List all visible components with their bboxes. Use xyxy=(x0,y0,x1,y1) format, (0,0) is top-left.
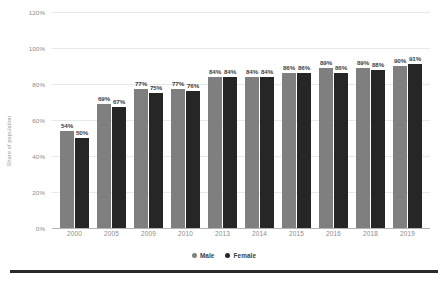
y-axis-tick-label: 40% xyxy=(32,153,45,160)
bar-value-label: 67% xyxy=(113,98,125,105)
x-axis-tick-label: 2019 xyxy=(389,230,426,237)
legend-swatch-icon xyxy=(225,253,230,258)
y-axis-tick-label: 60% xyxy=(32,117,45,124)
x-axis-tick-label: 2018 xyxy=(352,230,389,237)
bar-group: 77%75% xyxy=(130,12,167,228)
bar-group: 77%76% xyxy=(167,12,204,228)
y-axis-tick-label: 100% xyxy=(29,45,45,52)
bar-male[interactable]: 84% xyxy=(245,77,259,228)
bar-group: 89%88% xyxy=(352,12,389,228)
y-axis-tick-label: 120% xyxy=(29,9,45,16)
bar-female[interactable]: 91% xyxy=(408,64,422,228)
bar-group: 54%50% xyxy=(56,12,93,228)
bar-value-label: 91% xyxy=(409,55,421,62)
bar-value-label: 84% xyxy=(246,68,258,75)
bar-value-label: 77% xyxy=(135,80,147,87)
bar-female[interactable]: 86% xyxy=(297,73,311,228)
bar-male[interactable]: 89% xyxy=(319,68,333,228)
bar-female[interactable]: 67% xyxy=(112,107,126,228)
bar-value-label: 69% xyxy=(98,95,110,102)
x-axis-tick-labels: 2000200520092010201320142015201620182019 xyxy=(52,230,430,237)
x-axis-tick-label: 2009 xyxy=(130,230,167,237)
bar-male[interactable]: 54% xyxy=(60,131,74,228)
legend-label: Male xyxy=(200,252,215,259)
bar-value-label: 76% xyxy=(187,82,199,89)
bar-chart-figure: Share of population 0%20%40%60%80%100%12… xyxy=(0,0,448,281)
bar-group: 90%91% xyxy=(389,12,426,228)
x-axis-tick-label: 2016 xyxy=(315,230,352,237)
bar-group: 69%67% xyxy=(93,12,130,228)
bar-group: 89%86% xyxy=(315,12,352,228)
bar-value-label: 77% xyxy=(172,80,184,87)
bar-value-label: 75% xyxy=(150,84,162,91)
bar-male[interactable]: 77% xyxy=(171,89,185,228)
bar-groups: 54%50%69%67%77%75%77%76%84%84%84%84%86%8… xyxy=(52,12,430,228)
bar-male[interactable]: 89% xyxy=(356,68,370,228)
bar-value-label: 54% xyxy=(61,122,73,129)
x-axis-tick-label: 2005 xyxy=(93,230,130,237)
legend-item-male[interactable]: Male xyxy=(192,252,215,259)
x-axis-tick-label: 2010 xyxy=(167,230,204,237)
bar-value-label: 89% xyxy=(357,59,369,66)
chart-legend: MaleFemale xyxy=(0,252,448,259)
bar-female[interactable]: 84% xyxy=(223,77,237,228)
x-axis-tick-label: 2013 xyxy=(204,230,241,237)
y-axis-tick-label: 0% xyxy=(36,225,45,232)
bar-male[interactable]: 86% xyxy=(282,73,296,228)
x-axis-tick-label: 2015 xyxy=(278,230,315,237)
bar-female[interactable]: 50% xyxy=(75,138,89,228)
x-axis-tick-label: 2000 xyxy=(56,230,93,237)
legend-item-female[interactable]: Female xyxy=(225,252,256,259)
bar-value-label: 86% xyxy=(335,64,347,71)
bar-value-label: 84% xyxy=(224,68,236,75)
y-axis-tick-label: 80% xyxy=(32,81,45,88)
x-axis-tick-label: 2014 xyxy=(241,230,278,237)
bar-male[interactable]: 84% xyxy=(208,77,222,228)
bar-value-label: 84% xyxy=(209,68,221,75)
bar-group: 84%84% xyxy=(241,12,278,228)
plot-area: 54%50%69%67%77%75%77%76%84%84%84%84%86%8… xyxy=(52,12,430,228)
gridline xyxy=(52,228,430,229)
y-axis-tick-label: 20% xyxy=(32,189,45,196)
bar-value-label: 86% xyxy=(283,64,295,71)
bar-male[interactable]: 77% xyxy=(134,89,148,228)
bar-male[interactable]: 69% xyxy=(97,104,111,228)
bar-female[interactable]: 84% xyxy=(260,77,274,228)
bar-group: 86%86% xyxy=(278,12,315,228)
bar-female[interactable]: 86% xyxy=(334,73,348,228)
bar-value-label: 90% xyxy=(394,57,406,64)
bar-value-label: 50% xyxy=(76,129,88,136)
bar-female[interactable]: 75% xyxy=(149,93,163,228)
bar-value-label: 89% xyxy=(320,59,332,66)
bar-value-label: 88% xyxy=(372,61,384,68)
legend-label: Female xyxy=(233,252,256,259)
bar-group: 84%84% xyxy=(204,12,241,228)
bar-female[interactable]: 88% xyxy=(371,70,385,228)
bar-value-label: 86% xyxy=(298,64,310,71)
y-axis-tick-labels: 0%20%40%60%80%100%120% xyxy=(0,12,50,228)
bar-male[interactable]: 90% xyxy=(393,66,407,228)
bar-value-label: 84% xyxy=(261,68,273,75)
legend-swatch-icon xyxy=(192,253,197,258)
bar-female[interactable]: 76% xyxy=(186,91,200,228)
footer-divider xyxy=(10,270,438,273)
